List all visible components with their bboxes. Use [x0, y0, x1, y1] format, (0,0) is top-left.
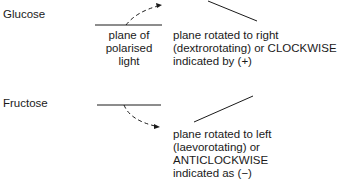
plane-label-line: light: [96, 55, 162, 68]
plane-label-line: polarised: [96, 42, 162, 55]
glucose-rotation-arrow: [126, 6, 158, 25]
fructose-label: Fructose: [3, 97, 48, 110]
fructose-result-text: plane rotated to left (laevorotating) or…: [173, 128, 271, 180]
diagram-lines: [0, 0, 339, 180]
fructose-rotated-plane-line: [194, 96, 253, 122]
glucose-rotated-plane-line: [208, 1, 257, 21]
result-line: plane rotated to right: [173, 29, 337, 42]
glucose-result-text: plane rotated to right (dextrorotating) …: [173, 29, 337, 68]
result-line: plane rotated to left: [173, 128, 271, 141]
result-line: indicated by (+): [173, 55, 337, 68]
fructose-rotation-arrow: [124, 105, 155, 126]
result-line: ANTICLOCKWISE: [173, 154, 271, 167]
plane-label-line: plane of: [96, 29, 162, 42]
fructose-arrowhead-icon: [154, 124, 160, 129]
plane-of-polarised-light-label: plane of polarised light: [96, 29, 162, 68]
glucose-label: Glucose: [3, 8, 45, 21]
result-line: (dextrorotating) or CLOCKWISE: [173, 42, 337, 55]
result-line: indicated as (−): [173, 167, 271, 180]
result-line: (laevorotating) or: [173, 141, 271, 154]
glucose-arrowhead-icon: [156, 3, 162, 8]
